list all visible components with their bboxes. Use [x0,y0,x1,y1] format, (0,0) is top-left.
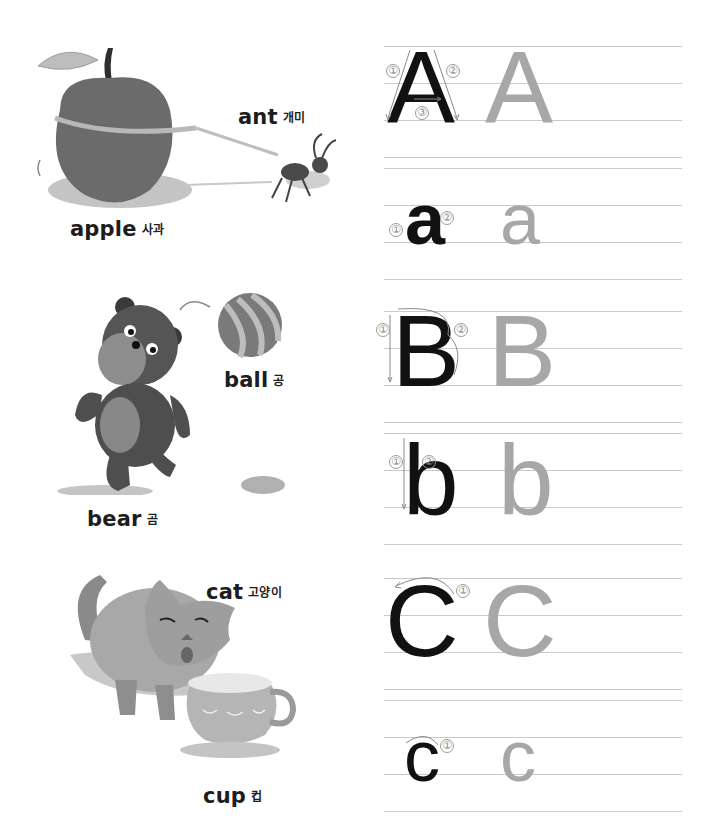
word-label-cat: cat고양이 [206,580,282,604]
english-word: cup [203,784,246,808]
korean-word: 개미 [283,111,305,125]
stroke-number: ① [389,455,403,469]
stroke-arrows-B [384,305,464,385]
stroke-number: ① [389,223,403,237]
rule-line [384,689,682,690]
stroke-number: ② [454,323,468,337]
korean-word: 곰 [147,513,158,527]
word-label-bear: bear곰 [87,507,158,531]
word-label-ant: ant개미 [238,105,305,129]
english-word: ant [238,105,278,129]
rule-line [384,544,682,545]
stroke-number: ① [440,739,454,753]
english-word: ball [224,368,268,392]
stroke-number: ① [456,584,470,598]
stroke-number: ③ [415,106,429,120]
english-word: bear [87,507,142,531]
stroke-number: ② [446,64,460,78]
rule-line [384,279,682,280]
rule-line [384,700,682,701]
korean-word: 공 [273,374,284,388]
korean-word: 고양이 [248,586,282,600]
trace-letter-C: C [483,570,557,672]
trace-letter-A: A [485,37,553,139]
rule-line [384,168,682,169]
model-letter-a: a [405,183,445,255]
stroke-number: ② [440,211,454,225]
word-label-apple: apple사과 [70,217,164,241]
rule-line [384,811,682,812]
stroke-number: ① [376,323,390,337]
trace-letter-c: c [500,720,536,792]
word-label-ball: ball공 [224,368,285,392]
korean-word: 컵 [251,790,262,804]
stroke-number: ② [422,455,436,469]
english-word: cat [206,580,243,604]
trace-letter-b: b [498,430,554,530]
stroke-arrows-b [400,436,440,516]
rule-line [384,157,682,158]
trace-letter-B: B [488,300,556,402]
rule-line [384,422,682,423]
stroke-arrows-A [384,46,474,126]
trace-letter-a: a [500,183,540,255]
stroke-number: ① [386,64,400,78]
english-word: apple [70,217,137,241]
word-label-cup: cup컵 [203,784,262,808]
korean-word: 사과 [142,223,164,237]
